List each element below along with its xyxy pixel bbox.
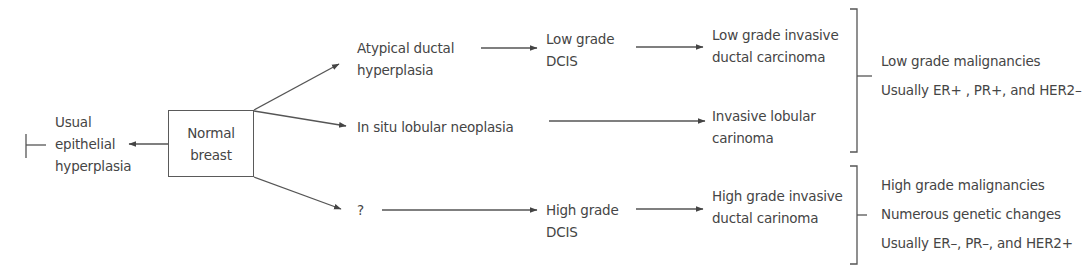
node-label-line: hyperplasia bbox=[357, 59, 454, 81]
atypical-ductal-hyperplasia-node: Atypical ductal hyperplasia bbox=[357, 37, 454, 81]
node-label-line: Low grade invasive bbox=[712, 24, 838, 46]
node-label-line: epithelial bbox=[55, 133, 131, 155]
low-grade-invasive-ductal-carcinoma-node: Low grade invasive ductal carcinoma bbox=[712, 24, 838, 68]
invasive-lobular-carcinoma-node: Invasive lobular carinoma bbox=[712, 105, 816, 149]
node-label-line: hyperplasia bbox=[55, 155, 131, 177]
annotation-line: Usually ER–, PR–, and HER2+ bbox=[881, 229, 1073, 258]
arrow-root-to-lobular-neoplasia bbox=[254, 111, 346, 126]
node-label-line: ? bbox=[357, 199, 364, 221]
node-label-line: carinoma bbox=[712, 127, 816, 149]
node-label-line: High grade bbox=[546, 199, 619, 221]
root-label-line: Normal bbox=[187, 122, 235, 144]
node-label-line: In situ lobular neoplasia bbox=[357, 116, 514, 138]
high-grade-dcis-node: High grade DCIS bbox=[546, 199, 619, 243]
node-label-line: Invasive lobular bbox=[712, 105, 816, 127]
low-grade-group-annotation: Low grade malignancies Usually ER+ , PR+… bbox=[881, 47, 1082, 105]
bracket-low-grade bbox=[850, 9, 857, 152]
node-label-line: Atypical ductal bbox=[357, 37, 454, 59]
node-label-line: Low grade bbox=[546, 28, 614, 50]
node-label-line: DCIS bbox=[546, 50, 614, 72]
bracket-high-grade bbox=[850, 166, 857, 264]
annotation-line: Usually ER+ , PR+, and HER2– bbox=[881, 76, 1082, 105]
in-situ-lobular-neoplasia-node: In situ lobular neoplasia bbox=[357, 116, 514, 138]
low-grade-dcis-node: Low grade DCIS bbox=[546, 28, 614, 72]
high-grade-invasive-ductal-carcinoma-node: High grade invasive ductal carinoma bbox=[712, 185, 843, 229]
annotation-line: Numerous genetic changes bbox=[881, 200, 1073, 229]
root-label-line: breast bbox=[190, 144, 232, 166]
arrow-root-to-adh bbox=[254, 64, 339, 110]
node-label-line: Usual bbox=[55, 111, 131, 133]
breast-cancer-progression-diagram: Normal breast Usual epithelial hyperplas… bbox=[0, 0, 1089, 278]
arrow-root-to-unknown bbox=[254, 177, 341, 209]
unknown-precursor-node: ? bbox=[357, 199, 364, 221]
node-label-line: ductal carcinoma bbox=[712, 46, 838, 68]
normal-breast-box: Normal breast bbox=[168, 110, 254, 177]
node-label-line: ductal carinoma bbox=[712, 207, 843, 229]
high-grade-group-annotation: High grade malignancies Numerous genetic… bbox=[881, 171, 1073, 258]
usual-epithelial-hyperplasia-node: Usual epithelial hyperplasia bbox=[55, 111, 131, 177]
annotation-line: High grade malignancies bbox=[881, 171, 1073, 200]
annotation-line: Low grade malignancies bbox=[881, 47, 1082, 76]
node-label-line: High grade invasive bbox=[712, 185, 843, 207]
node-label-line: DCIS bbox=[546, 221, 619, 243]
